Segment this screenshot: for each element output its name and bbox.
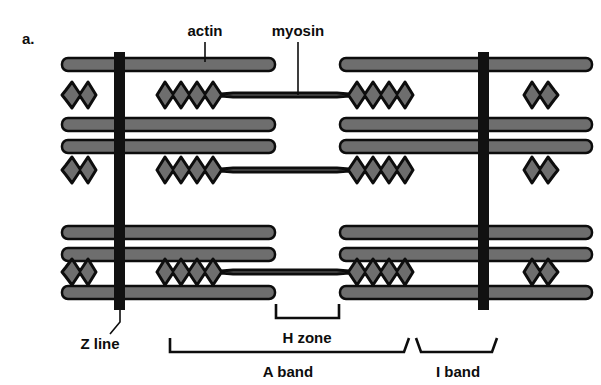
sarcomere-diagram: a. actin myosin Z line H zone A band I b… — [0, 0, 601, 385]
actin-filament — [62, 286, 275, 299]
actin-filament — [340, 248, 592, 261]
z-line-right — [478, 52, 489, 310]
actin-filament — [340, 286, 592, 299]
actin-filament — [340, 140, 592, 153]
z-line-left — [114, 52, 125, 310]
actin-filament — [62, 248, 275, 261]
actin-filament — [62, 58, 275, 71]
z-line-label: Z line — [80, 335, 119, 352]
actin-filament — [340, 58, 592, 71]
actin-filament — [62, 118, 275, 131]
actin-label: actin — [187, 22, 222, 39]
diagram-canvas: a. actin myosin Z line H zone A band I b… — [0, 0, 601, 385]
h-zone-label: H zone — [282, 329, 331, 346]
actin-filament — [62, 226, 275, 239]
actin-filament — [62, 140, 275, 153]
i-band-label: I band — [436, 363, 480, 380]
actin-filament — [340, 226, 592, 239]
myosin-label: myosin — [272, 22, 325, 39]
panel-label: a. — [22, 30, 35, 47]
a-band-label: A band — [263, 363, 313, 380]
actin-filament — [340, 118, 592, 131]
